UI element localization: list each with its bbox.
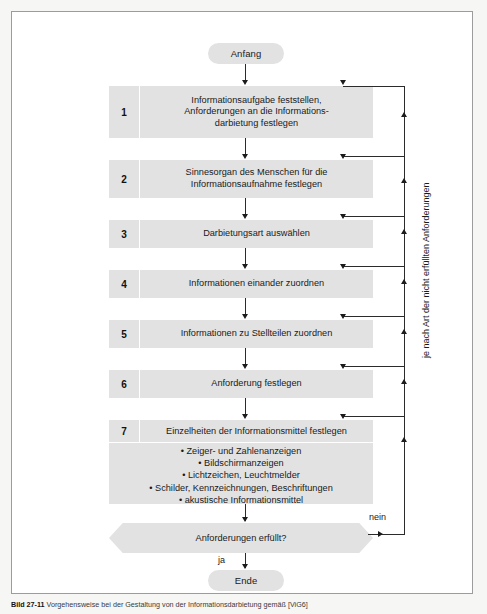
arrow-down-feedback-step1 — [340, 80, 346, 85]
process-box-1-line-2: Anforderungen an die Informations- — [184, 106, 329, 118]
arrow-down-step6 — [242, 364, 248, 369]
sublist-item-5: • akustische Informationsmittel — [179, 494, 303, 506]
feedback-branch-to-step3 — [343, 216, 405, 217]
process-box-2: 2 Sinnesorgan des Menschen für die Infor… — [109, 160, 373, 198]
arrow-up-riser-7 — [401, 437, 407, 442]
process-box-4: 4 Informationen einander zuordnen — [109, 270, 373, 298]
terminator-start: Anfang — [208, 43, 284, 64]
figure-caption-number: Bild 27-11 — [11, 600, 45, 609]
flowchart-canvas: Anfang 1 Informationsaufgabe feststellen… — [12, 12, 472, 593]
feedback-branch-to-step2 — [343, 156, 405, 157]
edge-label-no: nein — [369, 512, 386, 522]
process-box-4-number: 4 — [109, 270, 140, 298]
process-box-3-text: Darbietungsart auswählen — [140, 220, 373, 248]
process-box-2-line-1: Sinnesorgan des Menschen für die — [186, 167, 328, 179]
process-box-6-text: Anforderung festlegen — [140, 370, 373, 398]
arrow-up-riser-5 — [401, 329, 407, 334]
arrow-down-step1 — [242, 80, 248, 85]
process-box-7: 7 Einzelheiten der Informationsmittel fe… — [109, 420, 373, 504]
connector-decision-no — [368, 534, 405, 535]
figure-caption-text: Vorgehensweise bei der Gestaltung von de… — [45, 600, 308, 609]
terminator-end: Ende — [208, 570, 284, 591]
process-box-5-line-1: Informationen zu Stellteilen zuordnen — [181, 328, 333, 340]
feedback-loop-label: je nach Art der nicht erfüllten Anforder… — [421, 182, 431, 358]
process-box-1: 1 Informationsaufgabe feststellen, Anfor… — [109, 86, 373, 138]
decision-label: Anforderungen erfüllt? — [196, 533, 287, 543]
feedback-branch-to-step1 — [343, 86, 405, 87]
arrow-down-decision — [242, 517, 248, 522]
process-box-7-number: 7 — [109, 420, 140, 442]
arrow-down-step5 — [242, 314, 248, 319]
arrow-down-step7 — [242, 414, 248, 419]
figure-frame: Anfang 1 Informationsaufgabe feststellen… — [11, 11, 473, 594]
process-box-3: 3 Darbietungsart auswählen — [109, 220, 373, 248]
figure-page: Anfang 1 Informationsaufgabe feststellen… — [0, 0, 487, 614]
process-box-1-line-3: darbietung festlegen — [184, 118, 329, 130]
decision-requirements-met: Anforderungen erfüllt? — [109, 523, 373, 553]
process-box-5-number: 5 — [109, 320, 140, 348]
arrow-down-step2 — [242, 154, 248, 159]
terminator-end-label: Ende — [235, 575, 258, 586]
arrow-down-step3 — [242, 214, 248, 219]
arrow-down-feedback-step2 — [340, 154, 346, 159]
process-box-2-line-2: Informationsaufnahme festlegen — [186, 179, 328, 191]
arrow-down-step4 — [242, 264, 248, 269]
sublist-item-2: • Bildschirmanzeigen — [198, 457, 283, 469]
process-box-6-number: 6 — [109, 370, 140, 398]
arrow-down-end — [242, 564, 248, 569]
arrow-up-riser-6 — [401, 379, 407, 384]
feedback-branch-to-step7 — [343, 416, 405, 417]
arrow-down-feedback-step7 — [340, 414, 346, 419]
process-box-7-sublist: • Zeiger- und Zahlenanzeigen • Bildschir… — [109, 442, 373, 506]
sublist-item-3: • Lichtzeichen, Leuchtmelder — [182, 469, 300, 481]
edge-label-yes: ja — [218, 555, 225, 565]
arrow-down-feedback-step6 — [340, 364, 346, 369]
feedback-branch-to-step5 — [343, 316, 405, 317]
arrow-down-feedback-step5 — [340, 314, 346, 319]
process-box-7-header: 7 Einzelheiten der Informationsmittel fe… — [109, 420, 373, 442]
process-box-6-line-1: Anforderung festlegen — [211, 378, 301, 390]
process-box-5-text: Informationen zu Stellteilen zuordnen — [140, 320, 373, 348]
arrow-up-riser-2 — [401, 178, 407, 183]
process-box-6: 6 Anforderung festlegen — [109, 370, 373, 398]
process-box-7-text: Einzelheiten der Informationsmittel fest… — [140, 420, 373, 442]
feedback-branch-to-step6 — [343, 366, 405, 367]
process-box-1-text: Informationsaufgabe feststellen, Anforde… — [140, 86, 373, 138]
feedback-riser-line — [404, 86, 405, 534]
arrow-right-no — [378, 531, 383, 537]
process-box-1-line-1: Informationsaufgabe feststellen, — [184, 95, 329, 107]
arrow-up-riser-1 — [401, 112, 407, 117]
sublist-item-1: • Zeiger- und Zahlenanzeigen — [181, 445, 302, 457]
process-box-4-line-1: Informationen einander zuordnen — [189, 278, 324, 290]
process-box-3-number: 3 — [109, 220, 140, 248]
process-box-2-text: Sinnesorgan des Menschen für die Informa… — [140, 160, 373, 198]
arrow-down-feedback-step3 — [340, 214, 346, 219]
process-box-5: 5 Informationen zu Stellteilen zuordnen — [109, 320, 373, 348]
process-box-1-number: 1 — [109, 86, 140, 138]
feedback-branch-to-step4 — [343, 266, 405, 267]
arrow-down-feedback-step4 — [340, 264, 346, 269]
process-box-4-text: Informationen einander zuordnen — [140, 270, 373, 298]
terminator-start-label: Anfang — [231, 48, 262, 59]
process-box-3-line-1: Darbietungsart auswählen — [203, 228, 310, 240]
process-box-2-number: 2 — [109, 160, 140, 198]
sublist-item-4: • Schilder, Kennzeichnungen, Beschriftun… — [149, 482, 333, 494]
figure-caption: Bild 27-11 Vorgehensweise bei der Gestal… — [11, 600, 477, 609]
arrow-up-riser-4 — [401, 279, 407, 284]
arrow-up-riser-3 — [401, 229, 407, 234]
